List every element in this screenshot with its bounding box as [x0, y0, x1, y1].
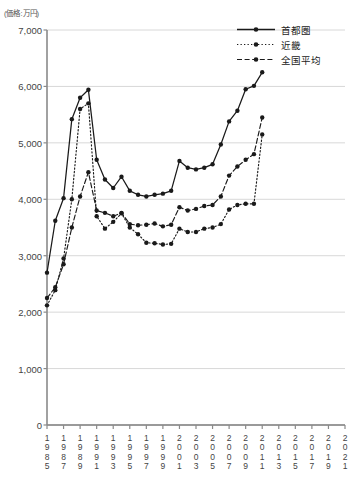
data-point-marker: [177, 226, 181, 230]
data-point-marker: [260, 115, 264, 119]
data-point-marker: [202, 165, 206, 169]
y-tick-label: 0: [0, 420, 42, 431]
data-point-marker: [194, 167, 198, 171]
data-point-marker: [161, 224, 165, 228]
data-point-marker: [45, 296, 49, 300]
data-point-marker: [53, 219, 57, 223]
x-tick-label: 2 0 1 1: [257, 434, 268, 472]
legend-label: 首都圏: [281, 23, 311, 37]
data-point-marker: [243, 158, 247, 162]
data-point-marker: [210, 225, 214, 229]
y-tick-label: 3,000: [0, 250, 42, 261]
x-tick-label: 2 0 0 5: [207, 434, 218, 472]
y-tick-label: 6,000: [0, 81, 42, 92]
data-point-marker: [78, 107, 82, 111]
data-point-marker: [61, 196, 65, 200]
x-tick-label: 2 0 1 5: [290, 434, 301, 472]
data-point-marker: [128, 222, 132, 226]
data-point-marker: [252, 152, 256, 156]
data-point-marker: [161, 242, 165, 246]
data-point-marker: [227, 173, 231, 177]
data-point-marker: [219, 142, 223, 146]
x-tick-label: 2 0 1 7: [306, 434, 317, 472]
data-point-marker: [136, 223, 140, 227]
data-point-marker: [219, 194, 223, 198]
data-point-marker: [260, 70, 264, 74]
x-tick-label: 2 0 2 1: [340, 434, 351, 472]
data-point-marker: [144, 194, 148, 198]
data-point-marker: [45, 270, 49, 274]
data-point-marker: [78, 96, 82, 100]
chart-legend: 首都圏近畿全国平均: [236, 22, 321, 67]
data-point-marker: [136, 193, 140, 197]
data-point-marker: [235, 203, 239, 207]
y-tick-label: 4,000: [0, 194, 42, 205]
data-point-marker: [186, 165, 190, 169]
data-point-marker: [136, 232, 140, 236]
y-axis-unit-label: (価格:万円): [4, 7, 39, 18]
legend-item-1: 近畿: [236, 37, 321, 52]
legend-swatch-icon: [236, 39, 276, 50]
legend-swatch-icon: [236, 24, 276, 35]
series-line-1: [47, 103, 262, 305]
data-point-marker: [70, 197, 74, 201]
data-point-marker: [119, 175, 123, 179]
data-point-marker: [94, 208, 98, 212]
data-point-marker: [152, 221, 156, 225]
data-point-marker: [210, 162, 214, 166]
data-point-marker: [152, 193, 156, 197]
legend-item-2: 全国平均: [236, 52, 321, 67]
x-tick-label: 2 0 1 9: [323, 434, 334, 472]
data-point-marker: [227, 207, 231, 211]
legend-item-0: 首都圏: [236, 22, 321, 37]
data-point-marker: [243, 87, 247, 91]
x-tick-label: 1 9 8 9: [75, 434, 86, 472]
data-point-marker: [243, 202, 247, 206]
data-point-marker: [235, 164, 239, 168]
data-point-marker: [152, 241, 156, 245]
data-point-marker: [177, 159, 181, 163]
data-point-marker: [169, 222, 173, 226]
data-point-marker: [252, 202, 256, 206]
data-point-marker: [169, 242, 173, 246]
data-point-marker: [144, 222, 148, 226]
data-point-marker: [94, 214, 98, 218]
data-point-marker: [70, 117, 74, 121]
data-point-marker: [161, 191, 165, 195]
x-tick-label: 1 9 9 7: [141, 434, 152, 472]
data-point-marker: [94, 158, 98, 162]
y-tick-label: 7,000: [0, 25, 42, 36]
chart-plot-area: [0, 0, 351, 486]
data-point-marker: [111, 214, 115, 218]
data-point-marker: [70, 225, 74, 229]
data-point-marker: [177, 205, 181, 209]
data-point-marker: [53, 285, 57, 289]
data-point-marker: [227, 119, 231, 123]
y-tick-label: 5,000: [0, 137, 42, 148]
data-point-marker: [186, 208, 190, 212]
data-point-marker: [210, 203, 214, 207]
legend-label: 近畿: [281, 38, 301, 52]
legend-swatch-icon: [236, 54, 276, 65]
x-tick-label: 1 9 9 9: [157, 434, 168, 472]
data-point-marker: [111, 220, 115, 224]
data-point-marker: [103, 226, 107, 230]
data-point-marker: [169, 189, 173, 193]
data-point-marker: [61, 262, 65, 266]
x-tick-label: 2 0 0 7: [224, 434, 235, 472]
data-point-marker: [235, 108, 239, 112]
x-tick-label: 1 9 9 5: [124, 434, 135, 472]
x-tick-label: 2 0 0 9: [240, 434, 251, 472]
x-tick-label: 2 0 0 1: [174, 434, 185, 472]
data-point-marker: [78, 194, 82, 198]
legend-label: 全国平均: [281, 53, 321, 67]
data-point-marker: [219, 222, 223, 226]
data-point-marker: [194, 230, 198, 234]
y-tick-label: 2,000: [0, 307, 42, 318]
data-point-marker: [86, 170, 90, 174]
y-tick-label: 1,000: [0, 363, 42, 374]
x-tick-label: 2 0 0 3: [191, 434, 202, 472]
data-point-marker: [202, 226, 206, 230]
x-tick-label: 2 0 1 3: [273, 434, 284, 472]
data-point-marker: [111, 186, 115, 190]
